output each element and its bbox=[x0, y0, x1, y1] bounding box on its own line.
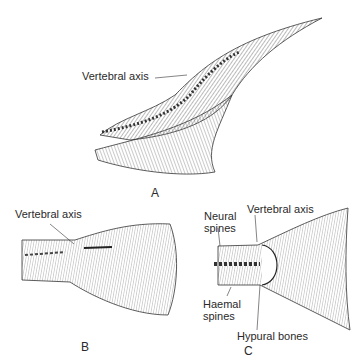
panel-c-hypural-leader bbox=[257, 285, 260, 330]
panel-letter-c: C bbox=[244, 344, 253, 358]
label-c-hypural-bones: Hypural bones bbox=[237, 330, 308, 342]
panel-letter-b: B bbox=[81, 340, 89, 354]
panel-c-haemal-leader bbox=[227, 287, 231, 296]
figure-drawings bbox=[0, 0, 361, 360]
panel-a-drawing bbox=[95, 18, 322, 174]
panel-letter-a: A bbox=[151, 186, 159, 200]
panel-a-leader bbox=[155, 75, 187, 78]
label-c-haemal-spines-2: spines bbox=[203, 310, 235, 322]
label-b-vertebral-axis: Vertebral axis bbox=[15, 208, 82, 220]
panel-c-vertebral-leader bbox=[255, 215, 257, 242]
label-a-vertebral-axis: Vertebral axis bbox=[82, 70, 149, 82]
label-c-neural-spines-2: spines bbox=[204, 222, 236, 234]
label-c-haemal-spines-1: Haemal bbox=[203, 298, 241, 310]
label-c-neural-spines-1: Neural bbox=[204, 210, 236, 222]
label-c-vertebral-axis: Vertebral axis bbox=[247, 203, 314, 215]
panel-b-drawing bbox=[22, 224, 177, 315]
